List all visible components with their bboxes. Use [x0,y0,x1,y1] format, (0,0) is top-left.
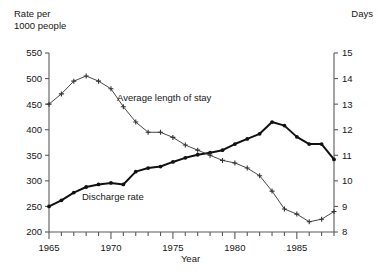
axis-lines [45,53,338,239]
right-axis-title: Days [351,8,373,20]
svg-text:200: 200 [26,226,42,237]
svg-text:14: 14 [342,73,353,84]
svg-text:250: 250 [26,201,42,212]
svg-text:300: 300 [26,175,42,186]
svg-text:15: 15 [342,47,353,58]
annotation-average-length-of-stay: Average length of stay [117,92,212,103]
svg-text:1980: 1980 [224,242,245,253]
annotation-layer: Average length of stayDischarge rate [82,92,212,202]
svg-text:8: 8 [342,226,347,237]
svg-text:550: 550 [26,47,42,58]
svg-text:1970: 1970 [100,242,121,253]
left-axis-title: Rate per 1000 people [14,8,66,31]
annotation-discharge-rate: Discharge rate [82,191,144,202]
plot-area: 200250300350400450500550 89101112131415 … [0,0,381,274]
svg-text:1985: 1985 [286,242,307,253]
svg-text:10: 10 [342,175,353,186]
chart-figure: Rate per 1000 people Days Year 200250300… [0,0,381,274]
svg-text:350: 350 [26,150,42,161]
x-axis-tick-labels: 19651970197519801985 [38,242,307,253]
svg-text:450: 450 [26,99,42,110]
left-axis-tick-labels: 200250300350400450500550 [26,47,42,237]
svg-text:400: 400 [26,124,42,135]
svg-text:13: 13 [342,99,353,110]
svg-text:500: 500 [26,73,42,84]
svg-text:1975: 1975 [162,242,183,253]
svg-text:1965: 1965 [38,242,59,253]
svg-text:12: 12 [342,124,353,135]
x-axis-title: Year [0,253,381,265]
svg-text:9: 9 [342,201,347,212]
right-axis-tick-labels: 89101112131415 [342,47,353,237]
svg-text:11: 11 [342,150,352,161]
